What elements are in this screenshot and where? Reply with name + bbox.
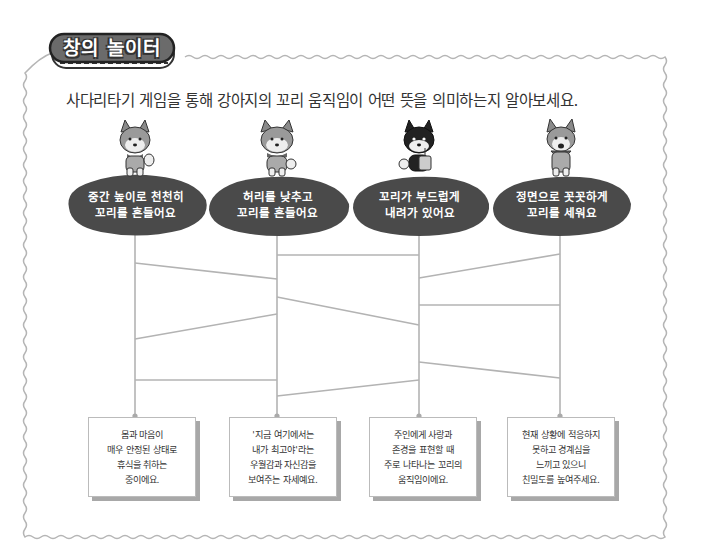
blob-label: 허리를 낮추고 꼬리를 흔들어요 — [203, 180, 353, 230]
shiba-inu-dog-icon — [253, 118, 301, 178]
shiba-inu-dog-icon — [537, 118, 585, 178]
answer-card-3[interactable]: 주인에게 사랑과 존경을 표현할 때 주로 나타나는 꼬리의 움직임이에요. — [369, 417, 477, 497]
ladder-rung — [419, 362, 560, 378]
ladder-rung — [135, 314, 277, 339]
ladder-rung — [135, 263, 277, 279]
blob-label: 정면으로 꼿꼿하게 꼬리를 세워요 — [487, 180, 637, 230]
blob-label: 꼬리가 부드럽게 내려가 있어요 — [345, 180, 495, 230]
shiba-inu-dog-icon — [111, 118, 159, 178]
title-badge: 창의 놀이터 — [50, 34, 180, 70]
ladder-rung — [277, 297, 419, 325]
ladder-rung — [277, 380, 419, 396]
badge-title: 창의 놀이터 — [50, 34, 174, 62]
black-shiba-dog-icon — [395, 118, 443, 178]
blob-label: 중간 높이로 천천히 꼬리를 흔들어요 — [61, 180, 211, 230]
answer-card-2[interactable]: '지금 여기에서는 내가 최고야'라는 우월감과 자신감을 보여주는 자세예요. — [229, 417, 337, 497]
answer-card-4[interactable]: 현재 상황에 적응하지 못하고 경계심을 느끼고 있으니 친밀도를 높여주세요. — [507, 417, 615, 497]
ladder-rung — [419, 254, 560, 278]
instruction-text: 사다리타기 게임을 통해 강아지의 꼬리 움직임이 어떤 뜻을 의미하는지 알아… — [66, 88, 578, 110]
answer-card-1[interactable]: 몸과 마음이 매우 안정된 상태로 휴식을 취하는 중이에요. — [88, 417, 196, 497]
